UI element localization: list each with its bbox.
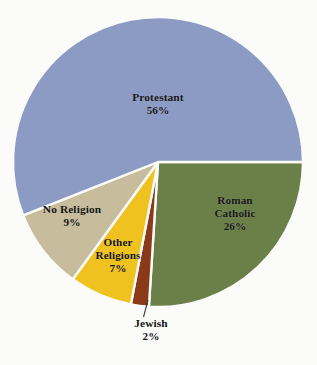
slice-label-protestant: Protestant 56% (104, 91, 212, 117)
slice-label-other-religions-name: Other Religions (76, 236, 160, 262)
slice-label-no-religion: No Religion 9% (20, 203, 124, 229)
slice-label-jewish-name: Jewish (108, 317, 194, 330)
pie-chart: Protestant 56% Roman Catholic 26% No Rel… (0, 0, 317, 365)
slice-label-jewish-value: 2% (108, 330, 194, 343)
slice-label-other-religions: Other Religions 7% (76, 236, 160, 275)
slice-label-protestant-value: 56% (104, 104, 212, 117)
slice-label-roman-catholic: Roman Catholic 26% (186, 194, 284, 233)
slice-label-no-religion-value: 9% (20, 216, 124, 229)
slice-label-jewish: Jewish 2% (108, 317, 194, 343)
pie-slice-roman-catholic[interactable] (149, 162, 303, 307)
slice-label-other-religions-value: 7% (76, 262, 160, 275)
pie-chart-canvas (0, 0, 317, 365)
slice-label-protestant-name: Protestant (104, 91, 212, 104)
slice-label-roman-catholic-value: 26% (186, 220, 284, 233)
slice-label-roman-catholic-name: Roman Catholic (186, 194, 284, 220)
slice-label-no-religion-name: No Religion (20, 203, 124, 216)
